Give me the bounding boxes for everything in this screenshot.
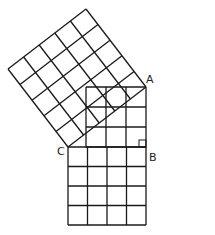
label-a: A — [146, 73, 154, 86]
label-b: B — [149, 151, 157, 164]
square-4x4 — [68, 147, 146, 225]
right-angle-marker — [139, 140, 146, 147]
pythagoras-diagram: A B C — [0, 0, 215, 235]
square-5x5 — [8, 9, 146, 147]
label-c: C — [57, 145, 65, 158]
